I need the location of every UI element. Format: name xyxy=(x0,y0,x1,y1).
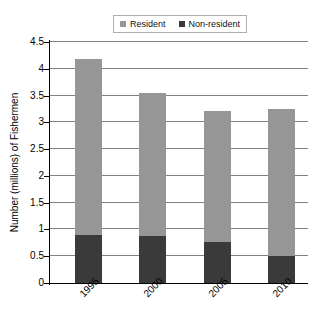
legend-item-resident: Resident xyxy=(120,20,166,29)
bar-segment-resident[interactable] xyxy=(139,93,166,237)
legend-label-resident: Resident xyxy=(130,20,166,29)
stacked-bar-chart: Resident Non-resident Number (millions) … xyxy=(0,0,319,331)
y-axis-tick-label: 4 xyxy=(0,64,44,74)
y-axis-tick-label: 0.5 xyxy=(0,251,44,261)
y-axis-tick-label: 4.5 xyxy=(0,37,44,47)
y-axis-tick-label: 2 xyxy=(0,171,44,181)
bar-segment-non-resident[interactable] xyxy=(204,242,231,283)
legend-item-non-resident: Non-resident xyxy=(179,20,241,29)
y-axis-tick-label: 1.5 xyxy=(0,198,44,208)
bar-2010[interactable] xyxy=(268,109,295,283)
bar-segment-non-resident[interactable] xyxy=(75,235,102,283)
bar-2000[interactable] xyxy=(139,93,166,283)
y-axis-ticks: 00.511.522.533.544.5 xyxy=(0,42,44,283)
y-axis-tick-label: 2.5 xyxy=(0,144,44,154)
bar-segment-resident[interactable] xyxy=(75,59,102,236)
bar-segment-resident[interactable] xyxy=(204,111,231,243)
bar-2005[interactable] xyxy=(204,111,231,283)
y-axis-tick-label: 3.5 xyxy=(0,91,44,101)
bar-segment-non-resident[interactable] xyxy=(139,236,166,283)
y-axis-tick-label: 1 xyxy=(0,224,44,234)
plot-area xyxy=(50,42,308,283)
bar-1995[interactable] xyxy=(75,59,102,283)
legend-swatch-resident xyxy=(120,21,126,27)
y-axis-tick-label: 3 xyxy=(0,117,44,127)
chart-legend: Resident Non-resident xyxy=(113,15,247,33)
legend-label-non-resident: Non-resident xyxy=(189,20,241,29)
legend-swatch-non-resident xyxy=(179,21,185,27)
bar-segment-resident[interactable] xyxy=(268,109,295,256)
y-axis-tick-label: 0 xyxy=(0,278,44,288)
gridline xyxy=(50,41,308,42)
